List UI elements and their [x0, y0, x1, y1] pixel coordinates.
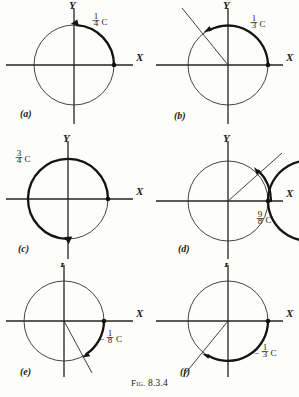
start-point-dot	[266, 319, 271, 324]
arc-amount-label-c: 3 4 C	[16, 148, 31, 165]
negative-sign: −	[254, 348, 259, 358]
panel-b: X Y (b) 1 3 C	[150, 0, 299, 132]
panel-tag-a: (a)	[20, 108, 32, 120]
arc-amount-label-b: 1 3 C	[251, 13, 266, 30]
panel-tag-d: (d)	[178, 243, 190, 255]
negative-sign: −	[99, 334, 104, 344]
y-axis-label: Y	[63, 132, 71, 144]
terminal-ray	[64, 321, 92, 373]
start-point-dot	[106, 197, 111, 202]
y-axis-label: Y	[223, 263, 231, 269]
arc-amount-label-f: − 1 3 C	[254, 342, 277, 359]
panel-e: X Y (e) − 1 8 C	[0, 263, 149, 395]
arrowhead-icon	[203, 26, 211, 33]
directed-arc	[77, 25, 115, 65]
terminal-ray	[184, 321, 228, 375]
panel-a-diagram: X Y (a) 1 4 C	[0, 0, 149, 132]
start-point-dot	[112, 63, 117, 68]
arc-amount-label-a: 1 4 C	[93, 11, 108, 28]
directed-arc	[209, 26, 268, 65]
panel-d-diagram: X Y (d) 9 8 C	[150, 131, 299, 263]
fraction-denominator: 4	[17, 155, 22, 165]
panel-f-diagram: X Y (f) − 1 3 C	[150, 263, 299, 395]
x-axis-label: X	[135, 185, 144, 197]
x-axis-label: X	[135, 307, 144, 319]
y-axis-label: Y	[223, 132, 231, 144]
y-axis-label: Y	[223, 0, 231, 11]
fraction-denominator: 8	[108, 335, 113, 345]
arrowhead-icon	[202, 354, 210, 359]
panel-e-diagram: X Y (e) − 1 8 C	[0, 263, 149, 395]
x-axis-label: X	[285, 187, 294, 199]
panel-tag-c: (c)	[18, 243, 29, 255]
fraction-denominator: 8	[258, 216, 263, 226]
figure-caption: Fig. 8.3.4	[0, 378, 299, 388]
x-axis-label: X	[135, 51, 144, 63]
caption-prefix: Fig.	[131, 378, 145, 388]
arc-unit-c: C	[25, 154, 31, 164]
start-point-dot	[266, 63, 271, 68]
y-axis-label: Y	[59, 263, 67, 269]
figure-plate: X Y (a) 1 4 C X Y (b) 1	[0, 0, 299, 397]
fraction-denominator: 3	[252, 20, 257, 30]
panel-a: X Y (a) 1 4 C	[0, 0, 149, 132]
panel-b-diagram: X Y (b) 1 3 C	[150, 0, 299, 132]
start-point-dot	[266, 199, 271, 204]
panel-f: X Y (f) − 1 3 C	[150, 263, 299, 395]
y-axis-label: Y	[69, 0, 77, 11]
arc-unit-c: C	[102, 17, 108, 27]
panel-tag-e: (e)	[20, 366, 31, 378]
panel-tag-f: (f)	[180, 366, 190, 378]
arc-unit-c: C	[271, 348, 277, 358]
panel-tag-b: (b)	[174, 110, 186, 122]
terminal-ray	[228, 153, 282, 201]
panel-c: X Y (c) 3 4 C	[0, 131, 149, 263]
fraction-denominator: 4	[94, 18, 99, 28]
panel-d: X Y (d) 9 8 C	[150, 131, 299, 263]
arrowhead-icon	[64, 237, 72, 245]
panel-c-diagram: X Y (c) 3 4 C	[0, 131, 149, 263]
x-axis-label: X	[285, 51, 294, 63]
arc-unit-c: C	[116, 334, 122, 344]
x-axis-label: X	[285, 307, 294, 319]
caption-number: 8.3.4	[148, 378, 168, 388]
arc-unit-c: C	[266, 215, 272, 225]
arc-unit-c: C	[260, 19, 266, 29]
fraction-denominator: 3	[263, 349, 268, 359]
start-point-dot	[102, 319, 107, 324]
